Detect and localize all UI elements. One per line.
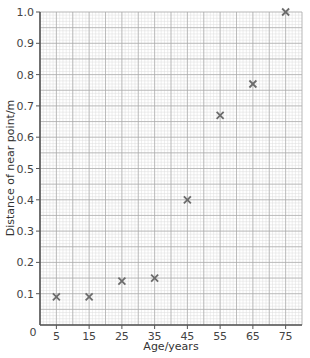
y-tick-label: 0.1 — [17, 288, 35, 301]
y-tick-label: 0.8 — [17, 69, 35, 82]
near-point-scatter-chart: 515253545556575 0.10.20.30.40.50.60.70.8… — [0, 0, 310, 358]
major-grid — [40, 12, 302, 325]
y-tick-label: 0.5 — [17, 163, 35, 176]
y-tick-label: 0.2 — [17, 256, 35, 269]
x-tick-label: 55 — [213, 330, 227, 343]
y-axis-ticks: 0.10.20.30.40.50.60.70.80.91.0 — [17, 6, 41, 301]
x-tick-label: 5 — [53, 330, 60, 343]
x-tick-label: 65 — [246, 330, 260, 343]
x-axis-title: Age/years — [143, 340, 199, 353]
y-tick-label: 0.4 — [17, 194, 35, 207]
x-tick-label: 75 — [279, 330, 293, 343]
y-tick-label: 0.3 — [17, 225, 35, 238]
y-axis-title: Distance of near point/m — [4, 100, 17, 237]
x-tick-label: 15 — [82, 330, 96, 343]
y-tick-label: 1.0 — [17, 6, 35, 19]
origin-label: 0 — [30, 326, 37, 339]
y-tick-label: 0.6 — [17, 131, 35, 144]
y-tick-label: 0.9 — [17, 37, 35, 50]
y-tick-label: 0.7 — [17, 100, 35, 113]
x-tick-label: 25 — [115, 330, 129, 343]
